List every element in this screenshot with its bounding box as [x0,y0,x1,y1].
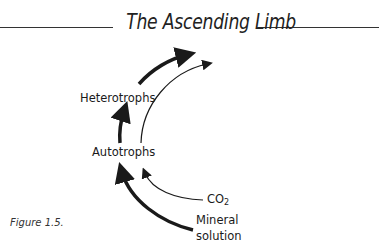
node-heterotrophs: Heterotrophs [80,91,155,105]
node-mineral-line1: Mineral [196,213,238,227]
co2-subscript: 2 [224,198,229,207]
arrow-heterotrophs-onward [139,55,186,84]
arrow-co2-to-autotrophs [145,173,203,200]
co2-text: CO [207,192,224,206]
arrow-autotrophs-to-heterotrophs [120,111,124,143]
node-co2: CO2 [207,192,229,207]
node-autotrophs: Autotrophs [92,145,155,159]
arrow-mineral-to-autotrophs [122,172,193,230]
node-mineral-line2: solution [196,229,242,243]
figure-caption: Figure 1.5. [10,217,64,228]
cycle-diagram [0,0,379,249]
